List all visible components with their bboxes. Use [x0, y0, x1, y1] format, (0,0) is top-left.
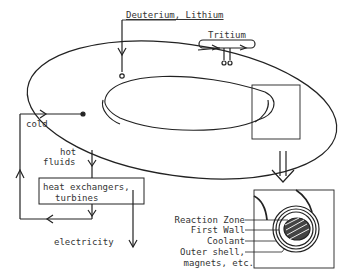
reaction-zone-label: Reaction Zone — [175, 215, 245, 225]
magnets-label: magnets, etc. — [184, 258, 254, 268]
first-wall-label: First Wall — [191, 225, 245, 235]
torus-outer — [18, 23, 345, 197]
hot-label-2: fluids — [43, 157, 76, 167]
torus-inner — [105, 76, 274, 130]
electricity-label: electricity — [54, 237, 114, 247]
heat-exchanger-label-2: turbines — [55, 193, 98, 203]
fuel-label: Deuterium, Lithium — [126, 10, 224, 20]
cold-label: cold — [26, 119, 48, 129]
coolant-label: Coolant — [207, 236, 245, 246]
hot-label-1: hot — [60, 147, 76, 157]
heat-exchanger-label-1: heat exchangers, — [43, 182, 130, 192]
outer-shell-label: Outer shell, — [180, 247, 245, 257]
detail-box-small — [252, 85, 300, 139]
diagram-canvas — [0, 0, 352, 280]
tritium-label: Tritium — [208, 30, 246, 40]
